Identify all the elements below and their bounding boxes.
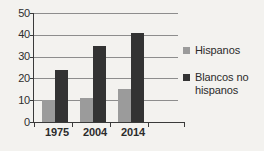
x-label-2004: 2004 — [75, 126, 115, 138]
gridline-40 — [33, 35, 178, 36]
y-axis-tick-labels: 50 40 30 20 10 0 — [0, 0, 30, 151]
y-tick-label-20: 20 — [2, 73, 30, 84]
gridline-50 — [33, 13, 178, 14]
x-axis-line — [33, 122, 185, 123]
x-axis-category-labels: 1975 2004 2014 — [33, 126, 185, 142]
bar-blancos-no-hispanos-2014 — [131, 33, 144, 122]
bar-hispanos-1975 — [42, 100, 55, 122]
y-tick-label-40: 40 — [2, 29, 30, 40]
plot-area — [33, 13, 178, 122]
x-label-1975: 1975 — [37, 126, 77, 138]
legend-swatch-icon-hispanos — [183, 47, 190, 54]
legend-swatch-icon-blancos-no-hispanos — [183, 74, 190, 81]
bar-hispanos-2014 — [118, 89, 131, 122]
x-label-2014: 2014 — [113, 126, 153, 138]
y-tick-label-30: 30 — [2, 51, 30, 62]
bar-hispanos-2004 — [80, 98, 93, 122]
legend-label-hispanos: Hispanos — [195, 44, 240, 57]
bar-blancos-no-hispanos-2004 — [93, 46, 106, 122]
y-tick-label-10: 10 — [2, 95, 30, 106]
y-axis-line — [33, 13, 34, 123]
bar-blancos-no-hispanos-1975 — [55, 70, 68, 122]
legend-label-blancos-no-hispanos: Blancos no hispanos — [195, 71, 264, 97]
legend-item-hispanos: Hispanos — [183, 44, 264, 57]
legend-item-blancos-no-hispanos: Blancos no hispanos — [183, 71, 264, 97]
y-tick-label-0: 0 — [2, 117, 30, 128]
chart-legend: Hispanos Blancos no hispanos — [183, 44, 264, 111]
bar-chart-figure: 50 40 30 20 10 0 — [0, 0, 264, 151]
y-tick-label-50: 50 — [2, 8, 30, 19]
